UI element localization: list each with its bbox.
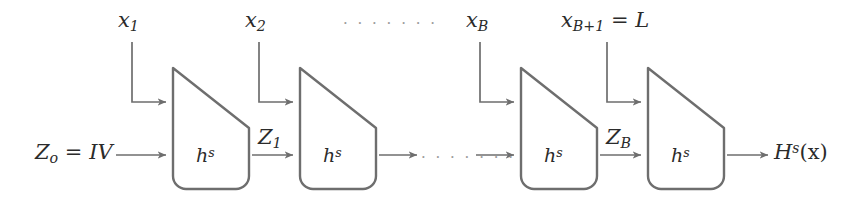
input-label-x2: x2 bbox=[245, 10, 266, 33]
ellipsis-top: · · · · · · · bbox=[343, 16, 438, 31]
block-shape-3 bbox=[521, 68, 597, 189]
input-label-xb1: xB+1 = L bbox=[561, 10, 649, 33]
block-shape-1 bbox=[173, 68, 249, 189]
block-label-1: hs bbox=[196, 146, 215, 165]
output-label: Hs(x) bbox=[774, 142, 828, 163]
input-connector-3 bbox=[480, 42, 514, 102]
block-shape-4 bbox=[648, 68, 724, 189]
ellipsis-middle: · · · · · · · bbox=[421, 150, 516, 165]
block-shape-2 bbox=[300, 68, 376, 189]
input-connector-4 bbox=[607, 42, 641, 102]
state-label-z1: Z1 bbox=[258, 127, 282, 150]
state-label-zb: ZB bbox=[606, 127, 631, 150]
input-label-x1: x1 bbox=[118, 10, 139, 33]
initial-state-label: Zo = IV bbox=[35, 142, 113, 165]
input-connector-2 bbox=[259, 42, 293, 102]
input-connector-1 bbox=[132, 42, 166, 102]
input-label-xb: xB bbox=[466, 10, 488, 33]
block-label-4: hs bbox=[671, 146, 690, 165]
block-chain-diagram: x1 x2 xB xB+1 = L Zo = IV Z1 ZB hs hs hs… bbox=[0, 0, 847, 206]
block-label-2: hs bbox=[323, 146, 342, 165]
block-label-3: hs bbox=[544, 146, 563, 165]
